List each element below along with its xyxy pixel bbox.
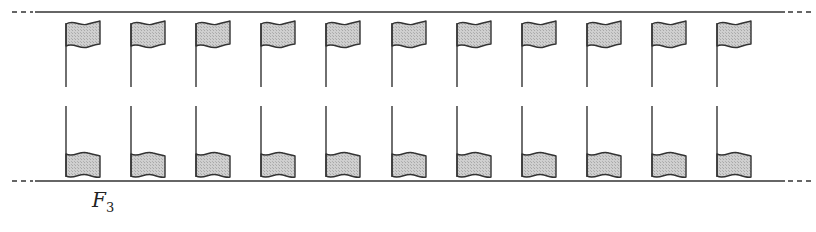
flag-upright-icon [326,21,360,87]
flag-upright-icon [587,21,621,87]
flag-reflected-icon [522,106,556,177]
label-letter: F [92,188,106,212]
flag-reflected-icon [587,106,621,177]
flag-upright-icon [261,21,295,87]
flag-reflected-icon [392,106,426,177]
flag-upright-icon [652,21,686,87]
flag-upright-icon [196,21,230,87]
flag-reflected-icon [326,106,360,177]
frieze-label: F3 [92,188,114,215]
flag-reflected-icon [652,106,686,177]
flag-upright-icon [717,21,751,87]
flag-reflected-icon [66,106,100,177]
flag-reflected-icon [457,106,491,177]
flag-upright-icon [457,21,491,87]
flag-upright-icon [66,21,100,87]
flag-upright-icon [131,21,165,87]
label-subscript: 3 [106,200,114,215]
frieze-canvas [0,0,816,232]
flag-upright-icon [522,21,556,87]
flag-reflected-icon [131,106,165,177]
flag-group [66,21,751,177]
flag-reflected-icon [717,106,751,177]
flag-reflected-icon [261,106,295,177]
flag-reflected-icon [196,106,230,177]
flag-upright-icon [392,21,426,87]
